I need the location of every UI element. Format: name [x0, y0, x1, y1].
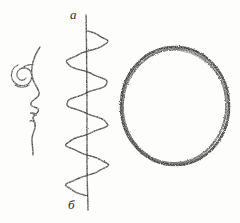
helix-bottom-label: б	[68, 198, 75, 211]
helix-top-label: a	[70, 8, 77, 21]
sketch-canvas	[0, 0, 240, 223]
